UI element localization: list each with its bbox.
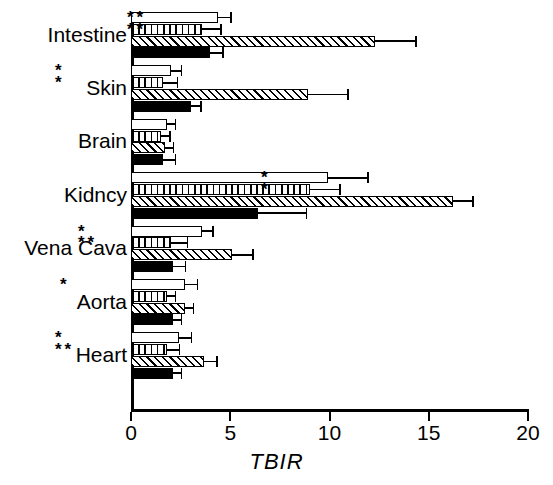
error-bar-skin-solid-black xyxy=(191,105,201,107)
error-bar-kidncy-vertical-striped xyxy=(310,189,340,191)
error-cap-aorta-diagonal-hatched xyxy=(193,303,195,314)
error-cap-intestine-vertical-striped xyxy=(220,24,222,35)
bar-aorta-diagonal-hatched xyxy=(131,303,185,314)
error-bar-skin-open xyxy=(171,70,181,72)
chart-figure: 05101520 IntestineSkinBrainKidncyVena Ca… xyxy=(0,0,553,485)
x-tick-0 xyxy=(130,412,132,421)
error-bar-vena-cava-solid-black xyxy=(173,266,185,268)
category-label-vena-cava: Vena Cava xyxy=(2,237,127,259)
error-bar-aorta-vertical-striped xyxy=(167,295,175,297)
error-bar-aorta-open xyxy=(185,284,197,286)
bar-skin-vertical-striped xyxy=(131,77,163,88)
error-bar-intestine-open xyxy=(218,17,230,19)
bar-kidncy-vertical-striped xyxy=(131,184,310,195)
significance-mark-intestine-1: ** xyxy=(127,25,146,35)
significance-mark-skin-1: * xyxy=(55,78,65,88)
bar-kidncy-diagonal-hatched xyxy=(131,196,453,207)
x-tick-10 xyxy=(329,412,331,421)
error-cap-intestine-solid-black xyxy=(222,47,224,58)
error-cap-kidncy-vertical-striped xyxy=(339,184,341,195)
error-cap-aorta-solid-black xyxy=(181,314,183,325)
error-bar-aorta-diagonal-hatched xyxy=(185,307,193,309)
error-bar-heart-vertical-striped xyxy=(167,349,179,351)
bar-skin-solid-black xyxy=(131,101,191,112)
significance-mark-kidncy-1: * xyxy=(261,185,271,195)
bar-vena-cava-solid-black xyxy=(131,261,173,272)
bar-skin-diagonal-hatched xyxy=(131,89,308,100)
error-cap-skin-diagonal-hatched xyxy=(347,89,349,100)
x-tick-label-10: 10 xyxy=(300,421,360,445)
bar-brain-solid-black xyxy=(131,154,163,165)
x-tick-label-0: 0 xyxy=(101,421,161,445)
error-cap-vena-cava-vertical-striped xyxy=(187,237,189,248)
error-cap-intestine-diagonal-hatched xyxy=(415,36,417,47)
bar-aorta-vertical-striped xyxy=(131,291,167,302)
error-cap-brain-open xyxy=(175,119,177,130)
bar-intestine-solid-black xyxy=(131,47,210,58)
x-tick-15 xyxy=(428,412,430,421)
error-cap-heart-solid-black xyxy=(181,368,183,379)
error-bar-vena-cava-vertical-striped xyxy=(171,242,187,244)
error-bar-brain-vertical-striped xyxy=(161,135,169,137)
x-tick-label-20: 20 xyxy=(498,421,553,445)
bar-aorta-open xyxy=(131,279,185,290)
error-cap-skin-open xyxy=(181,65,183,76)
error-cap-aorta-open xyxy=(197,279,199,290)
error-cap-vena-cava-solid-black xyxy=(185,261,187,272)
error-bar-brain-solid-black xyxy=(163,159,175,161)
significance-mark-vena-cava-1: ** xyxy=(78,238,97,248)
error-cap-brain-solid-black xyxy=(175,154,177,165)
error-bar-aorta-solid-black xyxy=(173,319,181,321)
x-tick-5 xyxy=(229,412,231,421)
bar-aorta-solid-black xyxy=(131,314,173,325)
bar-brain-diagonal-hatched xyxy=(131,142,165,153)
error-bar-kidncy-solid-black xyxy=(258,212,306,214)
error-bar-vena-cava-diagonal-hatched xyxy=(232,254,252,256)
significance-mark-aorta-0: * xyxy=(60,280,70,290)
error-cap-brain-diagonal-hatched xyxy=(173,142,175,153)
error-cap-heart-diagonal-hatched xyxy=(216,356,218,367)
category-label-brain: Brain xyxy=(2,130,127,152)
error-cap-kidncy-solid-black xyxy=(306,208,308,219)
error-bar-intestine-diagonal-hatched xyxy=(375,40,415,42)
bar-skin-open xyxy=(131,65,171,76)
bar-heart-diagonal-hatched xyxy=(131,356,204,367)
bar-vena-cava-vertical-striped xyxy=(131,237,171,248)
error-bar-heart-open xyxy=(179,337,191,339)
error-cap-vena-cava-diagonal-hatched xyxy=(252,249,254,260)
error-cap-brain-vertical-striped xyxy=(169,131,171,142)
bar-heart-open xyxy=(131,332,179,343)
error-cap-vena-cava-open xyxy=(212,226,214,237)
error-cap-skin-vertical-striped xyxy=(177,77,179,88)
x-tick-label-15: 15 xyxy=(399,421,459,445)
x-axis-title: TBIR xyxy=(0,449,553,475)
bar-heart-vertical-striped xyxy=(131,344,167,355)
bar-kidncy-open xyxy=(131,172,328,183)
bar-brain-open xyxy=(131,119,167,130)
error-cap-kidncy-diagonal-hatched xyxy=(472,196,474,207)
error-bar-intestine-vertical-striped xyxy=(202,28,220,30)
x-tick-label-5: 5 xyxy=(200,421,260,445)
error-cap-aorta-vertical-striped xyxy=(175,291,177,302)
error-cap-intestine-open xyxy=(230,12,232,23)
bar-kidncy-solid-black xyxy=(131,208,258,219)
error-bar-skin-vertical-striped xyxy=(163,82,177,84)
bar-intestine-diagonal-hatched xyxy=(131,36,375,47)
error-bar-intestine-solid-black xyxy=(210,52,222,54)
error-cap-heart-open xyxy=(191,332,193,343)
error-bar-kidncy-open xyxy=(328,177,368,179)
error-bar-vena-cava-open xyxy=(202,230,212,232)
error-cap-heart-vertical-striped xyxy=(179,344,181,355)
error-bar-heart-diagonal-hatched xyxy=(204,361,216,363)
error-cap-kidncy-open xyxy=(367,172,369,183)
error-cap-skin-solid-black xyxy=(200,101,202,112)
error-bar-brain-open xyxy=(167,123,175,125)
category-label-intestine: Intestine xyxy=(2,24,127,46)
bar-heart-solid-black xyxy=(131,368,173,379)
error-bar-kidncy-diagonal-hatched xyxy=(453,200,473,202)
bar-vena-cava-diagonal-hatched xyxy=(131,249,232,260)
error-bar-heart-solid-black xyxy=(173,372,181,374)
category-label-kidncy: Kidncy xyxy=(2,184,127,206)
significance-mark-heart-1: ** xyxy=(55,345,74,355)
error-bar-skin-diagonal-hatched xyxy=(308,94,348,96)
